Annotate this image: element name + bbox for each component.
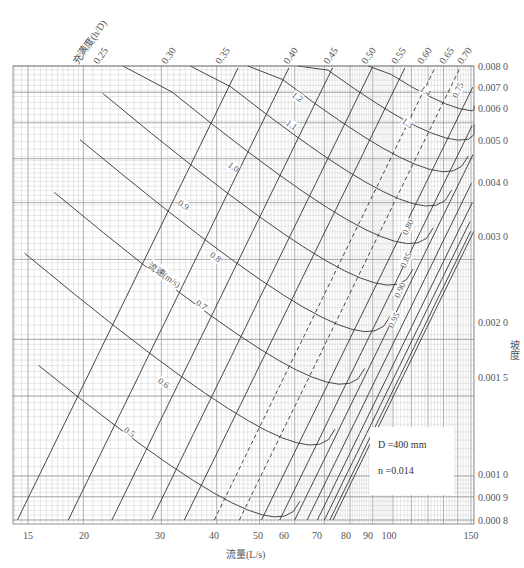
y-tick-label: 0.005 0 [478, 135, 508, 146]
roughness-label: n =0.014 [378, 465, 414, 476]
x-tick-label: 60 [279, 530, 289, 541]
y-tick-label: 0.000 8 [478, 515, 508, 526]
y-tick-label: 0.001 5 [478, 372, 508, 383]
x-tick-label: 20 [79, 530, 89, 541]
x-tick-label: 90 [363, 530, 373, 541]
y-tick-label: 0.001 0 [478, 469, 508, 480]
parameter-inset: D =400 mm n =0.014 [370, 427, 454, 495]
y-axis-label: 坡度 [506, 340, 521, 360]
y-tick-label: 0.002 0 [478, 317, 508, 328]
x-tick-label: 30 [155, 530, 165, 541]
y-tick-label: 0.006 0 [478, 103, 508, 114]
y-tick-label: 0.000 9 [478, 492, 508, 503]
x-tick-label: 50 [253, 530, 263, 541]
x-tick-label: 80 [341, 530, 351, 541]
x-axis-label: 流量(L/s) [226, 546, 265, 561]
y-tick-label: 0.004 0 [478, 177, 508, 188]
diameter-label: D =400 mm [378, 439, 426, 450]
x-tick-label: 100 [382, 530, 397, 541]
x-tick-label: 150 [464, 530, 479, 541]
x-tick-label: 40 [209, 530, 219, 541]
y-tick-label: 0.007 0 [478, 82, 508, 93]
x-tick-label: 15 [23, 530, 33, 541]
y-tick-label: 0.003 0 [478, 231, 508, 242]
x-tick-label: 70 [312, 530, 322, 541]
y-tick-label: 0.008 0 [478, 61, 508, 72]
